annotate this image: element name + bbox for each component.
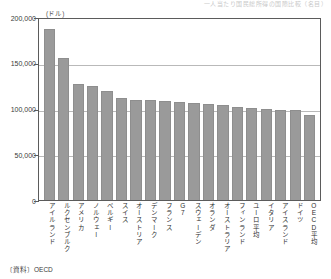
x-axis-label: デンマーク: [145, 202, 156, 260]
bar: [290, 110, 301, 200]
x-axis-label: アメリカ: [72, 202, 83, 260]
x-axis-label: ドイツ: [290, 202, 301, 260]
bar: [58, 58, 69, 200]
bar: [145, 100, 156, 200]
x-axis-label: フランス: [159, 202, 170, 260]
x-axis-label: スイス: [115, 202, 126, 260]
x-axis-label: ルクセンブルク: [57, 202, 68, 260]
bar: [73, 84, 84, 200]
x-axis-label: ベルギー: [101, 202, 112, 260]
bar: [246, 108, 257, 200]
bar: [217, 105, 228, 200]
bar: [232, 107, 243, 200]
bar: [44, 29, 55, 200]
bar: [188, 103, 199, 200]
bar: [130, 100, 141, 200]
x-axis-label: G7: [174, 202, 185, 260]
x-axis-label: OECD平均: [305, 202, 316, 260]
x-axis-label: オーストリア: [130, 202, 141, 260]
y-axis-tick-label: 50,000: [0, 152, 36, 159]
bar: [101, 91, 112, 201]
x-axis-label: スウェーデン: [188, 202, 199, 260]
bar: [159, 101, 170, 200]
source-note: 〔資料〕OECD: [6, 264, 53, 274]
x-axis-label: アイルランド: [43, 202, 54, 260]
y-axis-tick-label: 150,000: [0, 60, 36, 67]
bar: [203, 104, 214, 200]
y-axis-tick-label: 100,000: [0, 106, 36, 113]
x-axis-label: オランダ: [203, 202, 214, 260]
x-axis-label: ノルウェー: [86, 202, 97, 260]
bar: [304, 115, 315, 200]
y-axis-unit-label: (ドル): [46, 8, 64, 18]
bar: [116, 98, 127, 200]
bar: [174, 102, 185, 200]
y-axis-tick-label: 0: [0, 198, 36, 205]
x-axis-label: フィンランド: [232, 202, 243, 260]
plot-area: [38, 18, 321, 201]
x-axis-label: アイスランド: [276, 202, 287, 260]
x-axis-labels: アイルランドルクセンブルクアメリカノルウェーベルギースイスオーストリアデンマーク…: [38, 202, 321, 260]
x-axis-label: オーストラリア: [218, 202, 229, 260]
bar: [275, 110, 286, 201]
x-axis-label: ユーロ平均: [247, 202, 258, 260]
y-axis-tick-label: 200,000: [0, 15, 36, 22]
bar: [261, 109, 272, 200]
bar-series: [39, 19, 320, 200]
bar: [87, 86, 98, 200]
x-axis-label: イタリア: [261, 202, 272, 260]
chart-figure: 一人当たり国民総所得の国際比較（名目） (ドル) 200,000150,0001…: [0, 0, 331, 279]
